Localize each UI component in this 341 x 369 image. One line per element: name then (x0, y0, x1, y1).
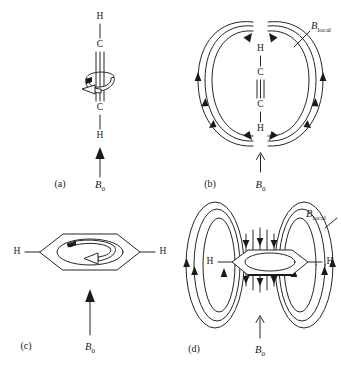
field-arrow-right-top (269, 33, 278, 43)
ring-current-arrow-c (67, 240, 116, 264)
circulation-tail-block (86, 77, 92, 84)
panel-c: H H B0 (c) (0, 190, 180, 369)
b0-label-d: B0 (255, 344, 265, 358)
center-arrow-2-top (257, 238, 264, 246)
b0-arrow-b (257, 153, 265, 173)
field-arrow-left-top (244, 33, 253, 43)
atom-label-h-bottom: H (97, 130, 104, 140)
atom-label-c-bottom: C (257, 99, 263, 109)
benzene-ring-d (232, 250, 308, 275)
b0-label-c: B0 (85, 341, 95, 355)
field-arrow-left-bottom (243, 131, 252, 140)
outer-arrow-right-2 (321, 266, 328, 275)
atom-label-h-bottom: H (257, 123, 264, 133)
panel-b-drawing: H C C H Blocal B0 (b) (180, 0, 341, 190)
substituent-h-right-d: H (308, 256, 334, 266)
figure-container: H C C H (0, 0, 341, 369)
atom-label-h-left: H (14, 246, 21, 256)
atom-label-c-bottom: C (97, 102, 103, 112)
electron-circulation-arrow-a (82, 72, 114, 94)
b0-arrow-a (95, 147, 104, 177)
center-arrow-2-bot (257, 278, 264, 286)
panel-c-drawing: H H B0 (c) (0, 190, 180, 369)
outer-arrow-left-inner (221, 268, 228, 277)
panel-a-drawing: H C C H (0, 0, 180, 190)
atom-label-c-top: C (97, 39, 103, 49)
atom-label-h-right: H (327, 256, 334, 266)
atom-label-h-left: H (207, 256, 214, 266)
blocal-label-d: Blocal (306, 208, 326, 222)
field-direction-arrows-right-b (269, 33, 326, 140)
panel-a: H C C H (0, 0, 180, 190)
atom-label-h-right: H (160, 246, 167, 256)
field-direction-arrows-left-b (195, 33, 252, 140)
substituent-h-left-d: H (207, 256, 232, 266)
panel-letter-b: (b) (204, 178, 216, 190)
field-loop-right-inner (268, 31, 309, 136)
atom-label-h-top: H (257, 43, 264, 53)
b0-arrow-d (256, 316, 264, 339)
outer-arrow-left-1 (183, 258, 190, 267)
panel-b: H C C H Blocal B0 (b) (180, 0, 341, 190)
field-arrow-right-2 (311, 98, 318, 107)
blocal-loops-left-b (198, 22, 253, 147)
field-loop-left-mid (194, 209, 240, 321)
field-loop-left-inner (212, 31, 253, 136)
atom-label-h-top: H (97, 11, 104, 21)
b0-arrowhead (85, 289, 95, 302)
panel-letter-c: (c) (20, 340, 31, 352)
panel-d: H H Blocal B0 (d) (180, 190, 341, 369)
panel-d-drawing: H H Blocal B0 (d) (180, 190, 341, 369)
field-arrow-left-1 (195, 72, 202, 81)
ring-current-arrowhead (84, 253, 98, 264)
outer-arrow-left-2 (191, 266, 198, 275)
panel-letter-a: (a) (54, 178, 65, 190)
alkyne-molecule-b: H C C H (257, 43, 264, 133)
blocal-leader-line (325, 218, 337, 228)
atom-label-c-top: C (257, 67, 263, 77)
center-arrow-1-top (243, 240, 250, 248)
substituent-h-right-c: H (140, 246, 167, 256)
field-arrow-right-1 (320, 72, 327, 81)
substituent-h-left-c: H (14, 246, 40, 256)
alkyne-molecule-a: H C C H (96, 11, 104, 140)
benzene-ring-c (40, 234, 140, 270)
field-arrow-right-bottom (269, 131, 278, 140)
b0-arrowhead (95, 147, 104, 159)
b0-arrow-c (85, 289, 95, 335)
blocal-loops-right-b (268, 22, 323, 147)
panel-letter-d: (d) (188, 343, 200, 355)
blocal-label-b: Blocal (311, 20, 331, 34)
